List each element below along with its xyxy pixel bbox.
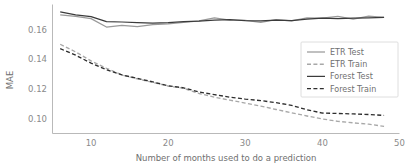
x-tick-label: 40 bbox=[317, 138, 328, 148]
legend-label-forest-test: Forest Test bbox=[330, 72, 373, 81]
x-tick-label: 20 bbox=[163, 138, 174, 148]
x-tick-label: 30 bbox=[240, 138, 251, 148]
legend-label-etr-train: ETR Train bbox=[330, 60, 367, 69]
y-tick-label: 0.12 bbox=[28, 84, 47, 94]
x-tick-label: 10 bbox=[86, 138, 97, 148]
x-axis-label: Number of months used to do a prediction bbox=[136, 153, 317, 163]
legend-label-forest-train: Forest Train bbox=[330, 85, 376, 94]
x-tick-label: 50 bbox=[394, 138, 405, 148]
series-line-etr-test bbox=[60, 15, 384, 27]
chart-figure: 0.100.120.140.16 1020304050 MAE Number o… bbox=[0, 0, 405, 167]
line-chart: 0.100.120.140.16 1020304050 MAE Number o… bbox=[0, 0, 405, 167]
chart-legend[interactable]: ETR TestETR TrainForest TestForest Train bbox=[301, 42, 398, 97]
legend-label-etr-test: ETR Test bbox=[330, 48, 364, 57]
series-line-forest-test bbox=[60, 12, 384, 23]
y-tick-label: 0.10 bbox=[28, 114, 47, 124]
y-tick-labels: 0.100.120.140.16 bbox=[28, 25, 47, 124]
y-axis-label: MAE bbox=[5, 71, 15, 90]
x-tick-labels: 1020304050 bbox=[86, 138, 405, 148]
y-tick-label: 0.14 bbox=[28, 54, 47, 64]
y-tick-label: 0.16 bbox=[28, 25, 47, 35]
